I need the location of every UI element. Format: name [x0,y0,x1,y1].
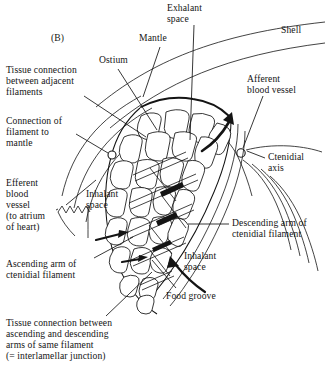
label-food-groove: Food groove [166,291,216,302]
label-interlamellar-junction: Tissue connection between ascending and … [6,318,112,362]
label-connection-filament-to-mantle: Connection of filament to mantle [6,116,62,149]
label-descending-arm: Descending arm of ctenidial filament [232,218,307,240]
label-ascending-arm: Ascending arm of ctenidial filament [6,259,76,281]
ctenidial-filament-lattice [105,110,231,314]
efferent-vessel-stem [58,212,75,236]
label-shell: Shell [281,25,301,36]
label-mantle: Mantle [139,33,167,44]
label-inhalant-space-lower: Inhalant space [184,251,216,272]
label-ostium: Ostium [99,55,128,66]
label-exhalant-space: Exhalant space [167,3,202,24]
label-afferent-blood-vessel: Afferent blood vessel [247,74,296,95]
panel-label: (B) [51,33,64,44]
label-tissue-connection-adjacent-filaments: Tissue connection between adjacent filam… [6,65,77,98]
label-inhalant-space-upper: Inhalant space [86,189,118,210]
label-ctenidial-axis: Ctenidial axis [268,152,304,173]
label-efferent-blood-vessel: Efferent blood vessel (to atrium of hear… [6,178,45,233]
filament-mantle-connection-node [108,151,116,159]
